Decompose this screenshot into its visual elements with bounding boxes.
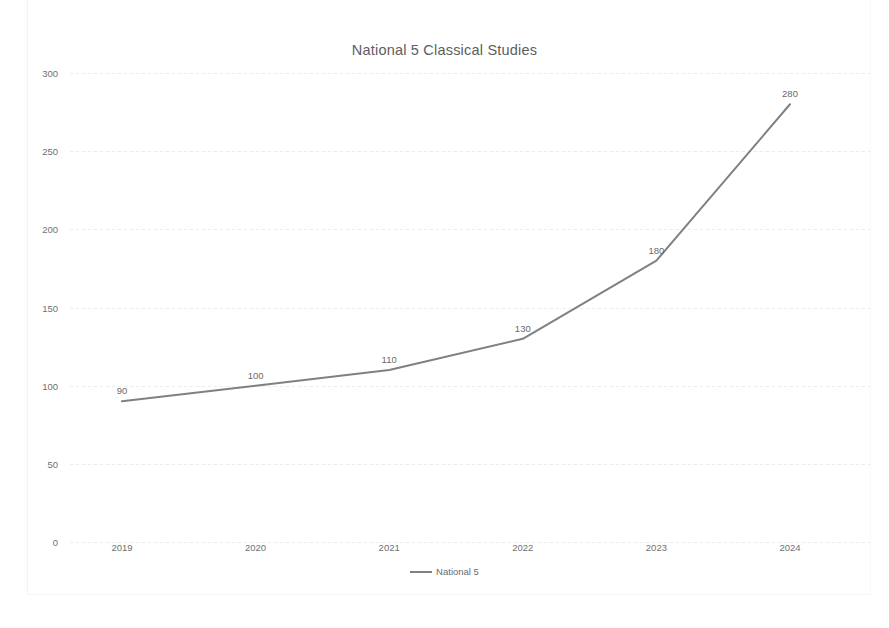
chart-title: National 5 Classical Studies	[0, 42, 889, 58]
x-tick-label: 2021	[379, 542, 400, 553]
y-tick-label: 100	[42, 380, 58, 391]
plot-area: 90100110130180280	[70, 73, 870, 542]
legend-swatch-national-5	[410, 571, 432, 573]
x-tick-label: 2023	[646, 542, 667, 553]
x-tick-label: 2019	[111, 542, 132, 553]
series-national-5	[70, 73, 870, 542]
y-axis: 050100150200250300	[0, 73, 64, 542]
series-line	[122, 104, 790, 401]
data-point-label: 110	[382, 354, 397, 365]
data-point-label: 100	[248, 370, 264, 381]
x-tick-label: 2024	[779, 542, 800, 553]
y-tick-label: 150	[42, 302, 58, 313]
data-point-label: 130	[515, 323, 531, 334]
y-tick-label: 300	[42, 68, 58, 79]
data-point-label: 280	[782, 88, 798, 99]
data-point-label: 90	[117, 385, 128, 396]
chart-legend: National 5	[0, 566, 889, 577]
legend-label-national-5: National 5	[436, 566, 479, 577]
y-tick-label: 50	[47, 458, 58, 469]
gridline	[70, 542, 870, 543]
x-tick-label: 2020	[245, 542, 266, 553]
x-tick-label: 2022	[512, 542, 533, 553]
y-tick-label: 200	[42, 224, 58, 235]
y-tick-label: 0	[53, 537, 58, 548]
data-point-label: 180	[648, 245, 664, 256]
y-tick-label: 250	[42, 146, 58, 157]
x-axis: 201920202021202220232024	[70, 542, 870, 558]
